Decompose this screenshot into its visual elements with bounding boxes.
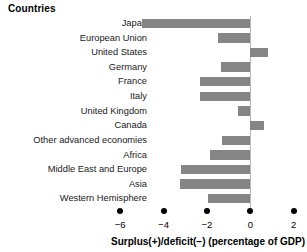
- tick-label: −4: [158, 219, 169, 230]
- bar: [180, 179, 251, 188]
- category-label: Asia: [129, 177, 147, 192]
- bar-row: Other advanced economies: [0, 133, 307, 148]
- bar-row: Germany: [0, 60, 307, 75]
- bar: [210, 150, 250, 159]
- bar-row: United States: [0, 45, 307, 60]
- category-label: Other advanced economies: [33, 133, 147, 148]
- bar-chart: Countries JapanEuropean UnionUnited Stat…: [0, 0, 307, 252]
- category-label: European Union: [80, 31, 147, 46]
- tick-label: 2: [291, 219, 296, 230]
- category-label: United Kingdom: [81, 104, 147, 119]
- bar: [200, 92, 250, 101]
- bar: [218, 33, 251, 42]
- bar: [250, 121, 264, 130]
- bar: [222, 136, 250, 145]
- category-label: Germany: [109, 60, 147, 75]
- bar: [250, 48, 267, 57]
- bar-row: Middle East and Europe: [0, 162, 307, 177]
- x-axis-title: Surplus(+)/deficit(−) (percentage of GDP…: [0, 236, 305, 247]
- category-label: Italy: [130, 89, 147, 104]
- chart-title: Countries: [8, 3, 56, 14]
- tick-label: −2: [201, 219, 212, 230]
- bar-row: Africa: [0, 148, 307, 163]
- tick-dot: [161, 208, 167, 214]
- tick-dot: [247, 208, 253, 214]
- bar-row: Western Hemisphere: [0, 191, 307, 206]
- tick-label: −6: [115, 219, 126, 230]
- bar-row: Japan: [0, 16, 307, 31]
- category-label: Canada: [114, 118, 147, 133]
- bar: [181, 165, 250, 174]
- bar-row: United Kingdom: [0, 104, 307, 119]
- bar: [238, 106, 250, 115]
- bar-row: Asia: [0, 177, 307, 192]
- tick-label: 0: [248, 219, 253, 230]
- bar-row: Canada: [0, 118, 307, 133]
- tick-dot: [291, 208, 297, 214]
- category-label: United States: [91, 45, 147, 60]
- bar: [200, 77, 250, 86]
- bar-row: Italy: [0, 89, 307, 104]
- category-label: Africa: [123, 148, 147, 163]
- bar: [208, 194, 250, 203]
- bar: [221, 62, 250, 71]
- tick-dot: [204, 208, 210, 214]
- bar-row: France: [0, 74, 307, 89]
- axis-tick-labels: −6−4−202: [0, 219, 307, 232]
- category-label: Western Hemisphere: [60, 191, 147, 206]
- tick-dot: [117, 208, 123, 214]
- plot-area: JapanEuropean UnionUnited StatesGermanyF…: [0, 16, 307, 206]
- bar-row: European Union: [0, 31, 307, 46]
- category-label: Middle East and Europe: [48, 162, 147, 177]
- category-label: France: [118, 74, 147, 89]
- bar: [142, 19, 251, 28]
